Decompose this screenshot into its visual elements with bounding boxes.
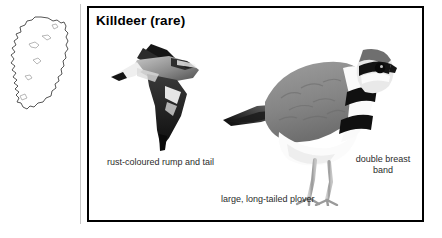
field-guide-page: Killdeer (rare) (0, 0, 442, 238)
killdeer-standing-illustration (217, 28, 397, 206)
killdeer-in-flight-illustration (107, 42, 215, 152)
caption-rust-rump: rust-coloured rump and tail (107, 157, 214, 168)
species-panel: Killdeer (rare) (87, 6, 424, 222)
column-divider (80, 4, 81, 224)
ireland-map-icon (8, 14, 74, 114)
distribution-map-column (0, 0, 80, 238)
page-title: Killdeer (rare) (96, 13, 185, 28)
caption-large-long-tailed-plover: large, long-tailed plover (221, 194, 315, 205)
caption-double-breast-band: double breast band (347, 154, 419, 176)
